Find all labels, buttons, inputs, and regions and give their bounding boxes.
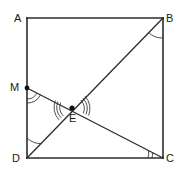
geometry-canvas: A B C D M E — [0, 0, 179, 175]
geometry-figure: A B C D M E — [0, 0, 179, 175]
angle-arc-C-2 — [148, 150, 149, 158]
vertex-label-M: M — [10, 81, 19, 93]
vertex-label-B: B — [166, 12, 173, 24]
angle-arc-M-1 — [27, 93, 37, 99]
angle-arc-C-1 — [152, 152, 153, 158]
point-marker-E — [69, 105, 74, 110]
vertex-label-D: D — [12, 152, 20, 164]
segment-MC — [27, 88, 163, 158]
vertex-label-A: A — [14, 12, 22, 24]
angle-arc-D-1 — [27, 138, 42, 144]
angle-mark-D — [27, 138, 42, 144]
angle-mark-B — [148, 32, 163, 38]
angle-arc-B-1 — [148, 32, 163, 38]
angle-arc-E-left-1 — [60, 103, 64, 116]
vertex-label-C: C — [166, 152, 174, 164]
inner-segments — [27, 18, 163, 158]
segment-BD — [27, 18, 163, 158]
point-marker-M — [25, 86, 30, 91]
angle-mark-E-right — [81, 96, 90, 115]
angle-mark-E-left — [54, 101, 63, 120]
vertex-label-E: E — [69, 112, 76, 124]
